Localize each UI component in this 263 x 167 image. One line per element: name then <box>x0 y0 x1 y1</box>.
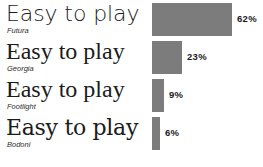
bar-value-label: 23% <box>187 52 207 62</box>
font-name-label: Bodoni <box>7 140 30 149</box>
font-name-label: Futura <box>7 26 29 35</box>
specimen-column: Easy to play Footlight <box>6 76 152 114</box>
bar <box>152 117 160 150</box>
bar-column: 62% <box>152 0 263 38</box>
font-name-label: Footlight <box>7 102 36 111</box>
specimen-text: Easy to play <box>6 115 138 140</box>
bar-column: 6% <box>152 114 263 152</box>
chart-row: Easy to play Footlight 9% <box>0 76 263 114</box>
chart-row: Easy to play Georgia 23% <box>0 38 263 76</box>
font-readability-bar-chart: Easy to play Futura 62% Easy to play Geo… <box>0 0 263 167</box>
specimen-column: Easy to play Georgia <box>6 38 152 76</box>
bar-column: 9% <box>152 76 263 114</box>
specimen-column: Easy to play Futura <box>6 0 152 38</box>
bar-column: 23% <box>152 38 263 76</box>
specimen-text: Easy to play <box>6 77 125 102</box>
bar-value-label: 9% <box>169 90 183 100</box>
chart-row: Easy to play Bodoni 6% <box>0 114 263 152</box>
bar <box>152 41 182 74</box>
bar <box>152 79 164 112</box>
bar-value-label: 62% <box>237 14 257 24</box>
font-name-label: Georgia <box>7 64 34 73</box>
specimen-text: Easy to play <box>6 39 125 64</box>
specimen-column: Easy to play Bodoni <box>6 114 152 152</box>
bar <box>152 3 232 36</box>
specimen-text: Easy to play <box>6 1 139 26</box>
chart-row: Easy to play Futura 62% <box>0 0 263 38</box>
bar-value-label: 6% <box>165 128 179 138</box>
